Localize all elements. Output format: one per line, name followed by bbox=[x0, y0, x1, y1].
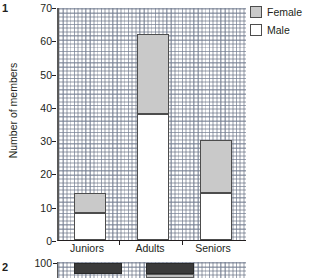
chart2-plot-area bbox=[57, 262, 246, 278]
chart-two-cropped: 100 Other bbox=[0, 258, 310, 278]
legend-item-male[interactable]: Male bbox=[250, 24, 308, 36]
chart2-bar-1[interactable] bbox=[74, 263, 122, 278]
bar-segment-juniors-male[interactable] bbox=[74, 213, 106, 240]
y-tick-label: 30 bbox=[26, 136, 52, 147]
bar-segment-seniors-male[interactable] bbox=[200, 193, 232, 240]
y-tick-mark bbox=[52, 141, 56, 142]
bar-seniors[interactable] bbox=[200, 140, 232, 240]
figure-root: 1 Number of members 70 60 50 40 30 20 10… bbox=[0, 0, 310, 278]
bar-juniors[interactable] bbox=[74, 193, 106, 240]
legend-item-female[interactable]: Female bbox=[250, 6, 308, 18]
y-tick-label: 70 bbox=[26, 3, 52, 14]
chart2-bar-2[interactable] bbox=[146, 263, 194, 278]
y-tick-mark bbox=[52, 75, 56, 76]
bar-segment-adults-female[interactable] bbox=[137, 34, 169, 114]
y-tick-mark bbox=[52, 8, 56, 9]
y-tick-mark bbox=[52, 174, 56, 175]
legend-swatch-female-icon bbox=[250, 6, 262, 18]
y-tick-label: 60 bbox=[26, 36, 52, 47]
y-tick-mark bbox=[52, 41, 56, 42]
chart2-bar-2-segment-lower[interactable] bbox=[146, 274, 194, 278]
plot-area bbox=[57, 8, 246, 241]
y-axis-title: Number of members bbox=[8, 51, 19, 171]
y-tick-mark bbox=[52, 108, 56, 109]
bar-segment-juniors-female[interactable] bbox=[74, 193, 106, 213]
y-tick-label: 40 bbox=[26, 103, 52, 114]
chart-members-by-age-group: Number of members 70 60 50 40 30 20 10 0 bbox=[0, 0, 310, 256]
bar-adults[interactable] bbox=[137, 34, 169, 240]
y-axis-line bbox=[58, 8, 59, 240]
legend-label-male: Male bbox=[267, 25, 290, 36]
y-tick-label: 10 bbox=[26, 203, 52, 214]
y-tick-mark bbox=[52, 208, 56, 209]
chart2-bar-2-segment-other[interactable] bbox=[146, 263, 194, 274]
y-tick-mark bbox=[52, 241, 56, 242]
bar-segment-seniors-female[interactable] bbox=[200, 140, 232, 193]
y-tick-label: 20 bbox=[26, 169, 52, 180]
x-tick-label-seniors: Seniors bbox=[176, 243, 250, 254]
chart2-bar-1-segment-other[interactable] bbox=[74, 263, 122, 274]
bar-segment-adults-male[interactable] bbox=[137, 114, 169, 241]
legend-label-female: Female bbox=[267, 7, 302, 18]
chart2-y-tick-label: 100 bbox=[24, 258, 52, 269]
legend: Female Male bbox=[250, 6, 308, 42]
y-tick-label: 0 bbox=[26, 236, 52, 247]
y-tick-label: 50 bbox=[26, 70, 52, 81]
legend-swatch-male-icon bbox=[250, 24, 262, 36]
y-axis-tick-labels: 70 60 50 40 30 20 10 0 bbox=[24, 0, 52, 256]
